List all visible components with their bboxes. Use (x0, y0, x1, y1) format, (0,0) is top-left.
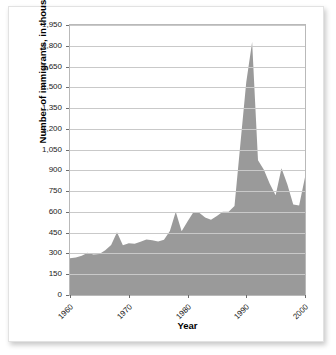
y-axis-tick-mark (66, 212, 69, 213)
gridline (70, 108, 305, 109)
x-axis-tick-mark (246, 295, 247, 298)
y-axis-tick-label: 1,950 (9, 21, 62, 29)
gridline (70, 274, 305, 275)
y-axis-tick-label: 750 (9, 187, 62, 195)
x-axis-title: Year (69, 320, 306, 331)
y-axis-tick-mark (66, 150, 69, 151)
y-axis-tick-mark (66, 253, 69, 254)
y-axis-tick-mark (66, 295, 69, 296)
chart-card: Number of immigrants, in thousands Year … (8, 6, 324, 342)
y-axis-tick-mark (66, 129, 69, 130)
gridline (70, 46, 305, 47)
gridline (70, 67, 305, 68)
y-axis-tick-label: 1,500 (9, 83, 62, 91)
y-axis-tick-mark (66, 274, 69, 275)
y-axis-tick-label: 900 (9, 166, 62, 174)
x-axis-tick-mark (70, 295, 71, 298)
y-axis-tick-mark (66, 67, 69, 68)
gridline (70, 87, 305, 88)
y-axis-tick-label: 1,050 (9, 146, 62, 154)
gridline (70, 150, 305, 151)
y-axis-tick-label: 300 (9, 249, 62, 257)
y-axis-tick-mark (66, 108, 69, 109)
y-axis-tick-mark (66, 87, 69, 88)
gridline (70, 170, 305, 171)
y-axis-tick-label: 150 (9, 270, 62, 278)
x-axis-tick-mark (129, 295, 130, 298)
y-axis-tick-label: 1,650 (9, 63, 62, 71)
immigration-area-chart: Number of immigrants, in thousands Year … (9, 7, 325, 343)
y-axis-tick-label: 1,200 (9, 125, 62, 133)
gridline (70, 212, 305, 213)
gridline (70, 191, 305, 192)
y-axis-tick-mark (66, 46, 69, 47)
gridline (70, 233, 305, 234)
gridline (70, 253, 305, 254)
y-axis-tick-label: 1,800 (9, 42, 62, 50)
gridline (70, 25, 305, 26)
y-axis-tick-label: 1,350 (9, 104, 62, 112)
y-axis-tick-mark (66, 170, 69, 171)
x-axis-tick-mark (188, 295, 189, 298)
y-axis-tick-label: 450 (9, 229, 62, 237)
area-series-immigrants (70, 25, 305, 295)
y-axis-tick-mark (66, 191, 69, 192)
y-axis-tick-label: 0 (9, 291, 62, 299)
y-axis-tick-mark (66, 25, 69, 26)
gridline (70, 129, 305, 130)
plot-area (69, 24, 306, 296)
y-axis-tick-mark (66, 233, 69, 234)
x-axis-tick-mark (305, 295, 306, 298)
y-axis-tick-label: 600 (9, 208, 62, 216)
